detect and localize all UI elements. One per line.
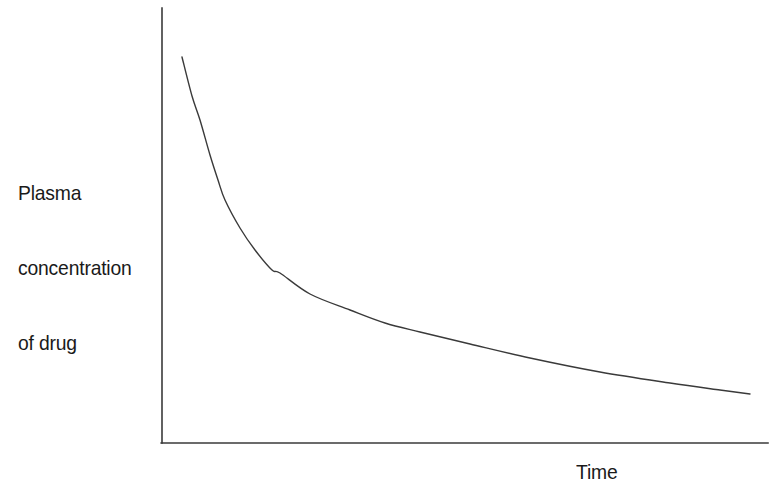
y-axis-label-line-2: concentration [18,255,132,280]
y-axis-label: Plasma concentration of drug [18,130,132,405]
concentration-decay-curve [182,57,750,394]
y-axis-label-line-3: of drug [18,330,132,355]
chart-figure: Plasma concentration of drug Time [0,0,782,499]
y-axis-label-line-1: Plasma [18,180,132,205]
x-axis-label: Time [576,459,617,484]
